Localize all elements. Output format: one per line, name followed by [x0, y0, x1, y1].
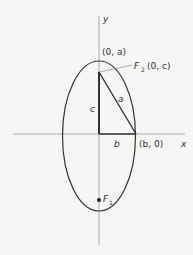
side-b-label: b: [114, 139, 120, 149]
focus2-name: F: [134, 61, 140, 71]
focus1-subscript: 1: [109, 199, 113, 206]
top-vertex-label: (0, a): [102, 47, 126, 57]
side-c-label: c: [90, 104, 95, 114]
side-a-label: a: [118, 94, 124, 104]
focus1-point: [97, 198, 101, 202]
ellipse-diagram: y x (0, a) F 2 (0, c) c a b (b, 0) F 1: [0, 0, 193, 255]
focus2-coords: (0, c): [147, 61, 170, 71]
focus2-leader: [99, 65, 132, 72]
right-vertex-label: (b, 0): [139, 139, 163, 149]
y-axis-label: y: [102, 14, 109, 24]
x-axis-label: x: [180, 139, 187, 149]
focus2-subscript: 2: [141, 66, 145, 73]
